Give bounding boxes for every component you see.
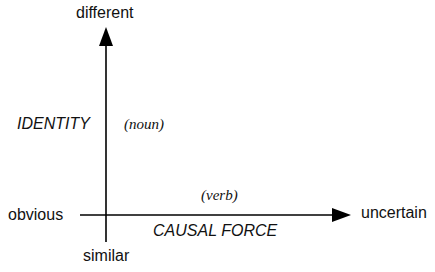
- identity-axis-name: IDENTITY: [17, 116, 90, 132]
- noun-label: (noun): [124, 117, 164, 132]
- right-arrowhead-icon: [332, 208, 351, 222]
- bottom-label: similar: [83, 248, 129, 264]
- verb-label: (verb): [201, 188, 238, 203]
- right-label: uncertain: [361, 205, 427, 221]
- causal-force-axis-name: CAUSAL FORCE: [153, 223, 277, 239]
- up-arrowhead-icon: [99, 27, 113, 46]
- top-label: different: [76, 5, 134, 21]
- left-label: obvious: [8, 207, 63, 223]
